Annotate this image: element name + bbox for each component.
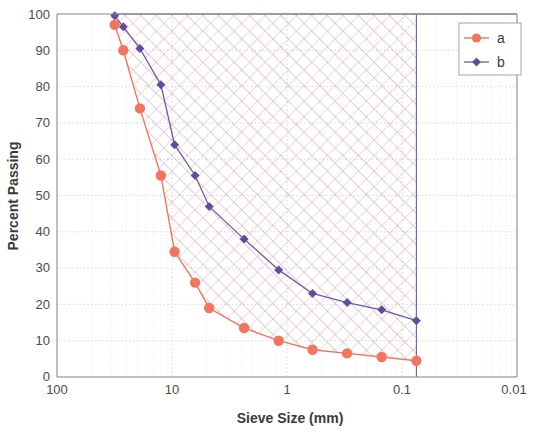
y-tick-label: 20 — [36, 297, 50, 312]
x-tick-label: 0.01 — [501, 382, 526, 397]
y-tick-label: 100 — [28, 7, 50, 22]
y-tick-label: 10 — [36, 333, 50, 348]
chart-figure: 100 90 80 70 60 50 40 30 20 10 0 100 10 … — [0, 0, 539, 435]
legend[interactable]: a b — [459, 23, 521, 75]
y-axis-title: Percent Passing — [5, 142, 21, 251]
x-axis-tick-labels: 100 10 1 0.1 0.01 — [46, 382, 527, 397]
legend-box — [459, 23, 521, 75]
legend-label-b: b — [497, 54, 505, 70]
y-tick-label: 60 — [36, 152, 50, 167]
y-tick-label: 70 — [36, 115, 50, 130]
x-tick-label: 1 — [283, 382, 290, 397]
y-tick-label: 90 — [36, 43, 50, 58]
legend-marker-a — [472, 33, 481, 42]
y-axis-tick-labels: 100 90 80 70 60 50 40 30 20 10 0 — [28, 7, 50, 384]
y-tick-label: 50 — [36, 188, 50, 203]
legend-label-a: a — [497, 30, 505, 46]
y-tick-label: 80 — [36, 79, 50, 94]
y-tick-label: 30 — [36, 260, 50, 275]
y-tick-label: 40 — [36, 224, 50, 239]
x-tick-label: 10 — [165, 382, 179, 397]
x-tick-label: 0.1 — [393, 382, 411, 397]
x-tick-label: 100 — [46, 382, 68, 397]
gradation-chart-svg: 100 90 80 70 60 50 40 30 20 10 0 100 10 … — [0, 0, 539, 435]
x-axis-title: Sieve Size (mm) — [237, 410, 344, 426]
